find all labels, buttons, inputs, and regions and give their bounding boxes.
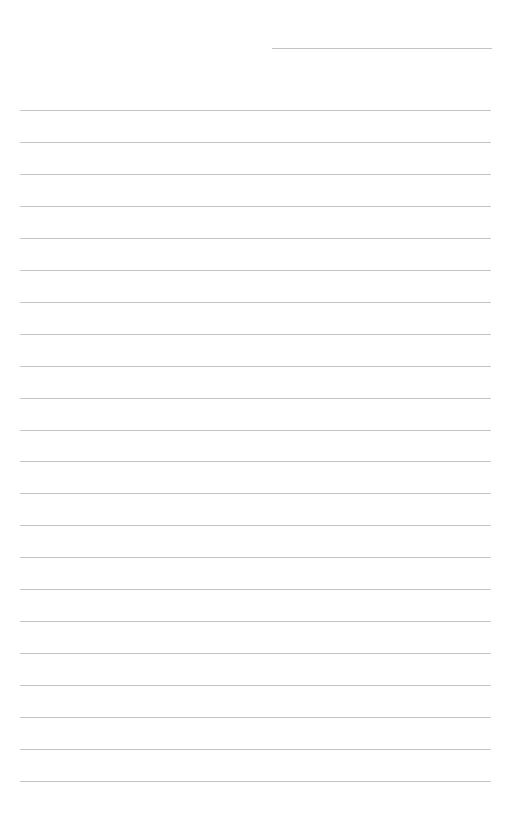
ruled-line — [20, 749, 491, 750]
ruled-line — [20, 142, 491, 143]
ruled-line — [20, 366, 491, 367]
ruled-line — [20, 589, 491, 590]
ruled-line — [20, 334, 491, 335]
ruled-line — [20, 557, 491, 558]
ruled-line — [20, 653, 491, 654]
ruled-line — [20, 430, 491, 431]
header-name-line — [272, 48, 492, 49]
ruled-line — [20, 717, 491, 718]
ruled-line — [20, 621, 491, 622]
ruled-line — [20, 174, 491, 175]
ruled-line — [20, 302, 491, 303]
ruled-line — [20, 461, 491, 462]
ruled-line — [20, 525, 491, 526]
ruled-line — [20, 206, 491, 207]
ruled-line — [20, 110, 491, 111]
ruled-line — [20, 781, 491, 782]
ruled-line — [20, 398, 491, 399]
ruled-line — [20, 493, 491, 494]
ruled-line — [20, 238, 491, 239]
ruled-line — [20, 685, 491, 686]
ruled-line — [20, 270, 491, 271]
